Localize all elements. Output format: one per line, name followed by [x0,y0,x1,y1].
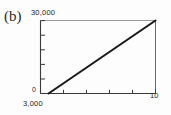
y-axis-ticks [41,21,46,94]
figure-panel: (b) 30,000 0 3,000 10 [0,0,171,115]
x-axis-ticks [41,89,156,93]
plot-area [0,0,171,115]
data-series-line [49,21,156,94]
